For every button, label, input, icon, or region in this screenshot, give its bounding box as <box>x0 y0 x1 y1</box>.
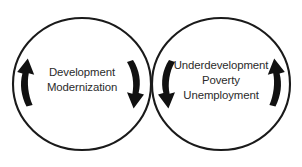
underdevelopment-label-line-1: Underdevelopment <box>174 59 270 71</box>
development-label-line-2: Modernization <box>47 81 117 93</box>
underdevelopment-label-line-2: Poverty <box>202 74 240 86</box>
cycle-diagram: Development Modernization Underdevelopme… <box>0 0 302 167</box>
diagram-canvas: Development Modernization Underdevelopme… <box>0 0 302 167</box>
development-label-line-1: Development <box>49 66 116 78</box>
underdevelopment-label-line-3: Unemployment <box>183 89 259 101</box>
